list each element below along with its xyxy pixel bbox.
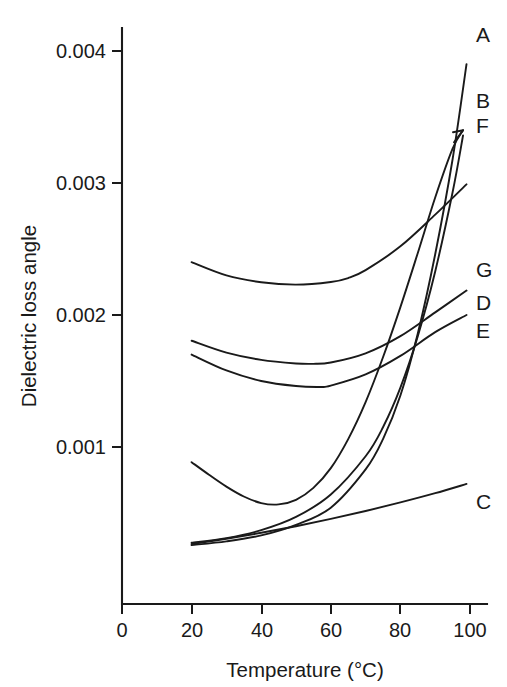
x-tick-label-40: 40	[251, 619, 273, 641]
y-axis-tick-labels: 0.004 0.003 0.002 0.001	[56, 40, 106, 458]
series-label-E: E	[476, 319, 490, 342]
curve-g	[192, 184, 467, 284]
x-axis-ticks	[122, 604, 470, 614]
x-tick-label-60: 60	[320, 619, 342, 641]
y-tick-label-0.004: 0.004	[56, 40, 106, 62]
series-label-F: F	[476, 114, 489, 137]
y-tick-label-0.001: 0.001	[56, 436, 106, 458]
curve-e	[192, 315, 467, 387]
curve-a	[192, 64, 467, 545]
x-axis-tick-labels: 0 20 40 60 80 100	[116, 619, 486, 641]
series-label-G: G	[476, 258, 492, 281]
x-tick-label-0: 0	[116, 619, 127, 641]
series-label-B: B	[476, 89, 490, 112]
series-end-labels: A B F G D E C	[476, 23, 492, 513]
x-tick-label-100: 100	[453, 619, 486, 641]
curve-c	[192, 484, 467, 544]
y-tick-label-0.002: 0.002	[56, 304, 106, 326]
series-label-A: A	[476, 23, 490, 46]
series-label-D: D	[476, 291, 491, 314]
x-tick-label-20: 20	[181, 619, 203, 641]
y-axis-title: Dielectric loss angle	[17, 225, 40, 407]
chart-figure: 0.004 0.003 0.002 0.001 0 20 40 60 80 10…	[0, 0, 507, 687]
chart-series-group	[192, 64, 467, 545]
chart-canvas: 0.004 0.003 0.002 0.001 0 20 40 60 80 10…	[0, 0, 507, 687]
series-label-C: C	[476, 490, 491, 513]
curve-b	[192, 135, 463, 542]
y-tick-label-0.003: 0.003	[56, 172, 106, 194]
y-axis-ticks	[112, 51, 122, 447]
chart-axes	[122, 28, 487, 604]
x-tick-label-80: 80	[389, 619, 411, 641]
x-axis-title: Temperature (°C)	[226, 658, 383, 681]
